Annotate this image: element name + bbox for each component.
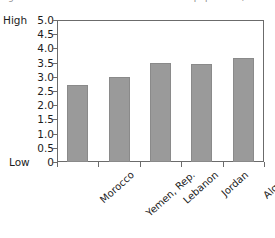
- bar: [150, 63, 171, 162]
- x-axis-label: Algeria: [261, 169, 275, 201]
- bar: [67, 85, 88, 162]
- x-axis-label: Morocco: [97, 169, 135, 205]
- y-axis-tick-label: 4.0: [8, 43, 54, 53]
- x-axis-tick-mark: [98, 162, 99, 167]
- title-fragment-left: g: [8, 0, 14, 2]
- bar: [233, 58, 254, 162]
- x-axis-tick-mark: [223, 162, 224, 167]
- y-axis-tick-label: 3.0: [8, 72, 54, 82]
- x-axis-tick-mark: [181, 162, 182, 167]
- bar: [109, 77, 130, 162]
- bar-chart: g f the population) High Low 5.04.54.03.…: [0, 0, 275, 238]
- y-axis-tick-label: 2.0: [8, 100, 54, 110]
- y-axis-tick-label: 0.5: [8, 143, 54, 153]
- x-axis-label: Jordan: [219, 169, 250, 198]
- y-axis-tick-label: 5.0: [8, 15, 54, 25]
- y-axis-ticks: 5.04.54.03.53.02.52.01.51.00.50: [0, 20, 54, 162]
- x-axis-tick-mark: [264, 162, 265, 167]
- x-axis-labels: MoroccoYemen, Rep.LebanonJordanAlgeriaSa: [0, 162, 275, 238]
- y-axis-tick-label: 3.5: [8, 58, 54, 68]
- y-axis-tick-label: 2.5: [8, 86, 54, 96]
- y-axis-tick-label: 4.5: [8, 29, 54, 39]
- x-axis-tick-mark: [57, 162, 58, 167]
- x-axis-tick-mark: [140, 162, 141, 167]
- bar: [191, 64, 212, 162]
- y-axis-tick-label: 1.0: [8, 129, 54, 139]
- clipped-title-row: g f the population): [0, 0, 275, 3]
- title-fragment-right: f the population): [170, 0, 245, 2]
- y-axis-tick-label: 1.5: [8, 114, 54, 124]
- bars-layer: [57, 20, 264, 162]
